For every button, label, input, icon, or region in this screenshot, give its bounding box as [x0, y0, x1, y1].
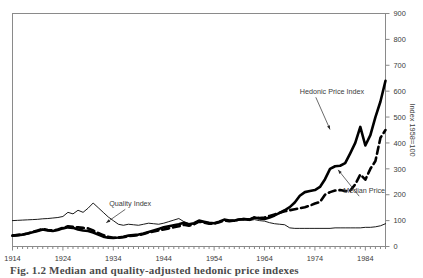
y-axis-tick-label: 100	[394, 216, 406, 225]
x-axis-tick-label: 1934	[105, 254, 121, 263]
x-axis-tick-label: 1914	[4, 254, 20, 263]
y-axis-tick-label: 300	[394, 165, 406, 174]
x-axis-tick-label: 1984	[357, 254, 373, 263]
y-axis-tick-label: 200	[394, 190, 406, 199]
x-axis-tick-label: 1974	[307, 254, 323, 263]
figure-container: 19141924193419441954196419741984 0100200…	[0, 0, 423, 278]
plot-area-frame	[13, 14, 386, 247]
series-annotation-label: Median Price	[343, 186, 385, 195]
x-axis-tick-label: 1924	[55, 254, 71, 263]
price-index-line-chart: 19141924193419441954196419741984 0100200…	[0, 0, 423, 278]
x-axis-tick-label: 1954	[206, 254, 222, 263]
series-annotation-label: Hedonic Price Index	[300, 87, 365, 96]
y-axis-tick-label: 900	[394, 9, 406, 18]
y-axis: 0100200300400500600700800900	[386, 9, 406, 251]
y-axis-tick-label: 600	[394, 87, 406, 96]
y-axis-tick-label: 400	[394, 139, 406, 148]
y-axis-tick-label: 800	[394, 35, 406, 44]
y-axis-tick-label: 0	[394, 242, 398, 251]
y-axis-title: Index 1958=100	[408, 103, 417, 156]
x-axis-tick-label: 1964	[256, 254, 272, 263]
x-axis: 19141924193419441954196419741984	[4, 247, 385, 263]
figure-caption: Fig. 1.2 Median and quality-adjusted hed…	[10, 264, 299, 276]
y-axis-tick-label: 500	[394, 113, 406, 122]
x-axis-tick-label: 1944	[155, 254, 171, 263]
y-axis-tick-label: 700	[394, 61, 406, 70]
series-annotation-label: Quality Index	[109, 199, 151, 208]
